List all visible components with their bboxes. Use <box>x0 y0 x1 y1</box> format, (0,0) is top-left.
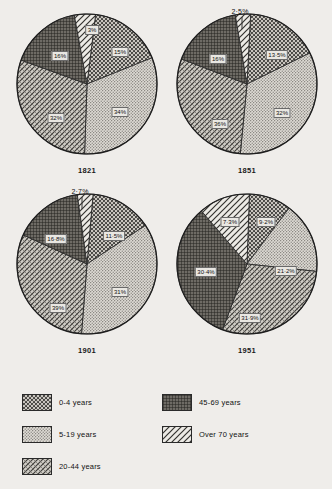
legend-swatch-5-19-icon <box>22 426 52 443</box>
legend-label-45-69: 45-69 years <box>199 398 241 407</box>
legend-label-20-44: 20-44 years <box>59 462 101 471</box>
chart-year-1901: 1901 <box>12 346 162 355</box>
slice-label-over-70: 2·5% <box>230 8 250 16</box>
pie-1821: 15% 34% 32% 16% 3% <box>12 8 162 160</box>
legend-label-0-4: 0-4 years <box>59 398 92 407</box>
pie-chart-grid: 15% 34% 32% 16% 3% 1821 <box>0 0 332 360</box>
pie-1851: 13·5% 32% 36% 16% 2·5% <box>172 8 322 160</box>
slice-label-45-69: 30·4% <box>195 267 217 277</box>
slice-label-20-44: 36% <box>211 119 228 129</box>
legend-swatch-over-70-icon <box>162 426 192 443</box>
legend-item-45-69: 45-69 years <box>162 394 241 411</box>
slice-label-45-69: 16% <box>51 51 68 61</box>
legend: 0-4 years 5-19 years 20-44 years 45-69 y… <box>0 372 332 489</box>
slice-label-45-69: 16% <box>209 54 226 64</box>
legend-item-20-44: 20-44 years <box>22 458 101 475</box>
chart-year-1951: 1951 <box>172 346 322 355</box>
slice-label-0-4: 11·5% <box>103 231 125 241</box>
slice-label-20-44: 32% <box>47 113 64 123</box>
pie-1951: 9·2% 21·2% 31·9% 30·4% 7·3% <box>172 188 322 340</box>
pie-1901-svg <box>12 188 162 340</box>
leader-line-over-70 <box>242 17 243 29</box>
pie-chart-1901: 11·5% 31% 39% 16·8% 2·7% 1901 <box>12 188 162 363</box>
chart-year-1851: 1851 <box>172 166 322 175</box>
legend-swatch-45-69-icon <box>162 394 192 411</box>
legend-label-over-70: Over 70 years <box>199 430 249 439</box>
pie-chart-1821: 15% 34% 32% 16% 3% 1821 <box>12 8 162 183</box>
pie-1851-svg <box>172 8 322 160</box>
chart-year-1821: 1821 <box>12 166 162 175</box>
slice-label-5-19: 32% <box>273 108 290 118</box>
legend-swatch-20-44-icon <box>22 458 52 475</box>
pie-chart-1851: 13·5% 32% 36% 16% 2·5% 1851 <box>172 8 322 183</box>
slice-label-over-70: 7·3% <box>220 217 239 227</box>
slice-label-0-4: 15% <box>111 47 128 57</box>
legend-item-over-70: Over 70 years <box>162 426 249 443</box>
slice-label-5-19: 34% <box>111 107 128 117</box>
slice-label-45-69: 16·8% <box>45 234 67 244</box>
slice-label-0-4: 9·2% <box>256 217 275 227</box>
legend-item-0-4: 0-4 years <box>22 394 92 411</box>
pie-chart-1951: 9·2% 21·2% 31·9% 30·4% 7·3% 1951 <box>172 188 322 363</box>
slice-label-5-19: 31% <box>111 287 128 297</box>
legend-item-5-19: 5-19 years <box>22 426 96 443</box>
legend-swatch-0-4-icon <box>22 394 52 411</box>
legend-label-5-19: 5-19 years <box>59 430 96 439</box>
figure-page: 15% 34% 32% 16% 3% 1821 <box>0 0 332 489</box>
slice-label-0-4: 13·5% <box>266 50 288 60</box>
slice-label-over-70: 3% <box>85 25 99 35</box>
slice-label-20-44: 31·9% <box>239 313 261 323</box>
pie-1901: 11·5% 31% 39% 16·8% 2·7% <box>12 188 162 340</box>
slice-label-20-44: 39% <box>49 303 66 313</box>
slice-label-5-19: 21·2% <box>275 266 297 276</box>
slice-label-over-70: 2·7% <box>70 188 90 196</box>
leader-line-over-70 <box>82 197 83 209</box>
